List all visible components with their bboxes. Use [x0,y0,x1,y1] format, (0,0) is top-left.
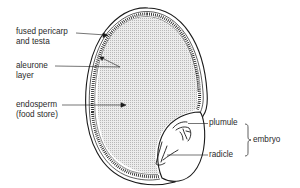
label-pericarp-line2: and testa [16,37,68,47]
label-aleurone-line1: aleurone [16,61,48,71]
label-aleurone-line2: layer [16,71,48,81]
label-aleurone: aleurone layer [16,61,48,80]
label-plumule: plumule [209,118,238,128]
label-endosperm-line2: (food store) [16,110,58,120]
label-radicle: radicle [209,150,233,160]
label-embryo: embryo [253,135,280,145]
embryo-brace [245,124,251,156]
label-pericarp-line1: fused pericarp [16,27,68,37]
label-endosperm: endosperm (food store) [16,100,58,119]
label-pericarp: fused pericarp and testa [16,27,68,46]
label-endosperm-line1: endosperm [16,100,58,110]
